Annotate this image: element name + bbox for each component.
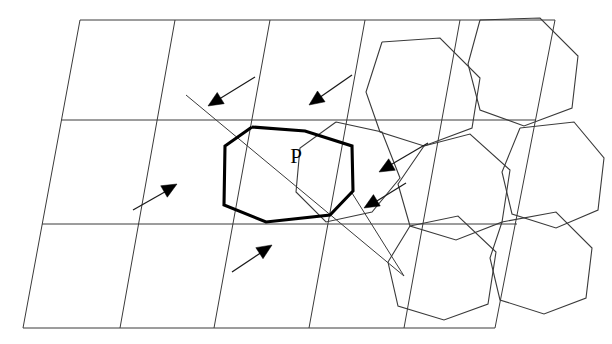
grid-lines-group: [23, 20, 555, 328]
grid-vertical-line-0: [23, 20, 80, 328]
grid-vertical-line-4: [404, 20, 460, 328]
cell-outline-0: [366, 38, 480, 146]
arrow-1-top-left-shaft: [216, 77, 255, 101]
grid-vertical-line-5: [495, 20, 555, 328]
arrow-1-top-left-head: [208, 92, 224, 106]
cell-outline-4: [388, 216, 496, 320]
cell-outline-6: [296, 122, 400, 222]
polygon-P: [224, 127, 353, 222]
arrow-2-top-middle-head: [309, 91, 325, 105]
diagram-canvas: P: [0, 0, 612, 344]
cell-outline-1: [468, 18, 578, 126]
arrow-4-right-lower-head: [364, 195, 380, 208]
lattice-diagram: P: [0, 0, 612, 344]
grid-vertical-line-2: [214, 20, 270, 328]
arrow-6-bottom-head: [256, 245, 272, 259]
arrow-5-left-head: [161, 184, 177, 197]
polygonal-cells-group: [296, 18, 604, 320]
grid-vertical-line-3: [309, 20, 365, 328]
cell-outline-5: [490, 212, 592, 314]
diagonal-upper-left-to-lower-right: [186, 95, 404, 276]
arrow-3-right-upper-shaft: [387, 143, 428, 167]
grid-vertical-line-1: [120, 20, 175, 328]
bold-polygon-group: [224, 127, 353, 222]
polygon-label-P: P: [290, 144, 302, 168]
diagonal-lines-group: [186, 95, 404, 276]
